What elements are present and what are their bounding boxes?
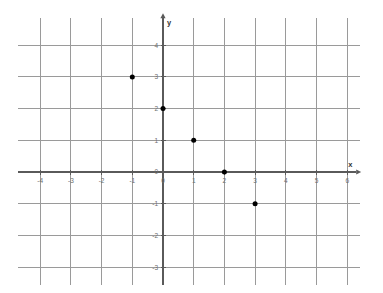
x-tick-label: 4 bbox=[284, 177, 288, 184]
x-axis-label: x bbox=[348, 160, 353, 169]
coordinate-plane-figure: -4-3-2-10123456 43210-1-2-3 x y bbox=[0, 0, 383, 293]
data-point bbox=[191, 138, 196, 143]
y-tick-label: 1 bbox=[154, 137, 158, 144]
x-tick-label: 6 bbox=[345, 177, 349, 184]
axes bbox=[18, 13, 361, 285]
y-tick-label: 4 bbox=[154, 42, 158, 49]
data-point bbox=[130, 74, 135, 79]
x-tick-label: -3 bbox=[68, 177, 74, 184]
x-tick-label: 0 bbox=[161, 177, 165, 184]
x-tick-label: 1 bbox=[192, 177, 196, 184]
x-axis-arrow-icon bbox=[356, 169, 361, 174]
horizontal-gridlines bbox=[18, 45, 360, 267]
coordinate-plane-svg: -4-3-2-10123456 43210-1-2-3 x y bbox=[0, 0, 383, 293]
data-point bbox=[253, 201, 258, 206]
x-tick-label: 5 bbox=[315, 177, 319, 184]
y-axis-label: y bbox=[167, 18, 172, 27]
x-tick-label: -2 bbox=[99, 177, 105, 184]
x-tick-label: -1 bbox=[129, 177, 135, 184]
y-axis-arrow-icon bbox=[160, 13, 165, 18]
x-tick-label: 3 bbox=[253, 177, 257, 184]
y-tick-label: 2 bbox=[154, 105, 158, 112]
data-point bbox=[222, 170, 227, 175]
y-tick-label: 3 bbox=[154, 73, 158, 80]
data-point bbox=[161, 106, 166, 111]
y-tick-label: -2 bbox=[152, 232, 158, 239]
x-tick-label: 2 bbox=[223, 177, 227, 184]
y-tick-label: -1 bbox=[152, 200, 158, 207]
y-tick-label: -3 bbox=[152, 264, 158, 271]
y-tick-label: 0 bbox=[154, 168, 158, 175]
vertical-gridlines bbox=[40, 18, 347, 285]
x-tick-label: -4 bbox=[37, 177, 43, 184]
